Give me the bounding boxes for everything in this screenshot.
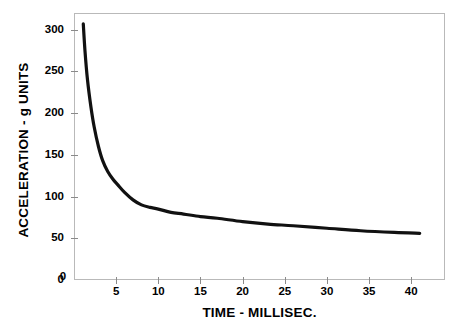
x-tick-15: 15: [180, 285, 220, 297]
x-tick-label: 15: [180, 285, 220, 297]
x-tick-20: 20: [223, 285, 263, 297]
x-tick-25: 25: [265, 285, 305, 297]
x-tick-mark: [327, 277, 328, 284]
x-tick-label: 40: [391, 285, 431, 297]
origin-zero-text: 0: [32, 270, 94, 282]
x-tick-mark: [285, 277, 286, 284]
y-tick-label: 50: [30, 232, 64, 243]
y-tick-mark: [71, 238, 78, 239]
x-tick-mark: [200, 277, 201, 284]
y-tick-150: 150: [30, 149, 64, 161]
y-tick-mark: [71, 155, 78, 156]
x-tick-35: 35: [349, 285, 389, 297]
x-tick-mark: [116, 277, 117, 284]
x-tick-label: 20: [223, 285, 263, 297]
plot-curve-svg: [74, 13, 445, 280]
x-tick-mark: [243, 277, 244, 284]
y-tick-300: 300: [30, 24, 64, 36]
y-tick-50: 50: [30, 232, 64, 244]
x-tick-mark: [369, 277, 370, 284]
x-tick-mark: [411, 277, 412, 284]
x-tick-label: 35: [349, 285, 389, 297]
x-tick-label: 30: [307, 285, 347, 297]
y-tick-label: 150: [30, 149, 64, 160]
y-tick-mark: [71, 30, 78, 31]
y-tick-mark: [71, 113, 78, 114]
x-tick-10: 10: [138, 285, 178, 297]
y-tick-label: 300: [30, 24, 64, 35]
x-axis-title: TIME - MILLISEC.: [74, 305, 445, 320]
x-tick-30: 30: [307, 285, 347, 297]
x-tick-40: 40: [391, 285, 431, 297]
y-tick-250: 250: [30, 65, 64, 77]
y-tick-label: 250: [30, 65, 64, 76]
origin-zero-label: 0: [54, 270, 94, 282]
y-tick-200: 200: [30, 107, 64, 119]
x-tick-mark: [158, 277, 159, 284]
x-tick-label: 5: [96, 285, 136, 297]
y-tick-label: 200: [30, 107, 64, 118]
y-tick-100: 100: [30, 191, 64, 203]
acceleration-vs-time-chart: ACCELERATION - g UNITS 30025020015010050…: [0, 0, 460, 330]
y-tick-mark: [71, 197, 78, 198]
x-tick-label: 10: [138, 285, 178, 297]
x-tick-5: 5: [96, 285, 136, 297]
y-tick-label: 100: [30, 191, 64, 202]
acceleration-curve: [83, 24, 419, 233]
y-tick-mark: [71, 71, 78, 72]
x-tick-label: 25: [265, 285, 305, 297]
